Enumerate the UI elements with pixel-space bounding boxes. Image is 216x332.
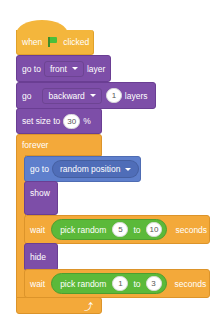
clicked-label: clicked (63, 37, 89, 47)
when-label: when (22, 37, 42, 47)
chevron-down-icon (90, 94, 96, 97)
pick-random-reporter[interactable]: pick random 5 to 10 (51, 219, 167, 240)
percent-label: % (83, 116, 91, 126)
direction-dropdown-value: backward (48, 91, 84, 101)
go-to-layer-block[interactable]: go to front layer (16, 55, 111, 82)
forever-label: forever (22, 140, 48, 150)
pick-random-label: pick random (60, 279, 106, 289)
forever-block-bottom[interactable]: ⤴ (16, 297, 102, 314)
pick-random-label: pick random (60, 225, 106, 235)
random-to-input[interactable]: 3 (146, 276, 162, 291)
chevron-down-icon (72, 67, 78, 70)
seconds-label: seconds (175, 279, 207, 289)
layer-dropdown-value: front (50, 64, 67, 74)
position-dropdown-value: random position (60, 164, 120, 174)
wait-block-1[interactable]: wait pick random 5 to 10 seconds (24, 215, 210, 244)
pick-random-reporter[interactable]: pick random 1 to 3 (51, 273, 166, 294)
wait-label: wait (30, 279, 45, 289)
set-size-block[interactable]: set size to 30 % (16, 108, 102, 134)
layers-count-input[interactable]: 1 (106, 88, 122, 103)
random-from-input[interactable]: 5 (112, 222, 128, 237)
forever-block-top[interactable]: forever (16, 134, 102, 156)
direction-dropdown[interactable]: backward (42, 88, 101, 104)
wait-label: wait (30, 225, 45, 235)
set-size-label: set size to (22, 116, 60, 126)
green-flag-icon (48, 37, 57, 47)
go-to-label: go to (30, 164, 49, 174)
show-block[interactable]: show (24, 181, 58, 215)
to-label: to (133, 225, 140, 235)
random-to-input[interactable]: 10 (146, 222, 163, 237)
when-flag-clicked-block[interactable]: when clicked (16, 30, 94, 55)
to-label: to (133, 279, 140, 289)
go-label: go (22, 91, 31, 101)
go-layers-block[interactable]: go backward 1 layers (16, 82, 156, 109)
show-label: show (30, 188, 50, 198)
layer-dropdown[interactable]: front (44, 61, 84, 77)
loop-arrow-icon: ⤴ (84, 300, 93, 313)
wait-block-2[interactable]: wait pick random 1 to 3 seconds (24, 269, 210, 298)
hide-block[interactable]: hide (24, 243, 58, 271)
layer-label: layer (87, 64, 105, 74)
go-to-position-block[interactable]: go to random position (24, 156, 141, 182)
go-to-label: go to (22, 64, 41, 74)
chevron-down-icon (125, 168, 131, 171)
size-input[interactable]: 30 (63, 114, 80, 129)
layers-label: layers (125, 91, 148, 101)
random-from-input[interactable]: 1 (112, 276, 128, 291)
position-dropdown[interactable]: random position (52, 160, 139, 178)
hide-label: hide (30, 252, 46, 262)
seconds-label: seconds (175, 225, 207, 235)
